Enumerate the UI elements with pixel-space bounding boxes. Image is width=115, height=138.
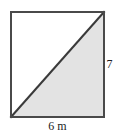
geometry-figure: 7 6 m [0, 0, 115, 138]
square-with-diagonal-diagram [0, 0, 115, 138]
base-dimension-label: 6 m [11, 120, 104, 132]
height-dimension-label: 7 [104, 58, 115, 70]
